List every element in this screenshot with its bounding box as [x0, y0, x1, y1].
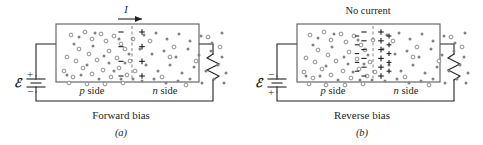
electron-carrier: [221, 32, 224, 35]
electron-carrier: [155, 32, 158, 35]
hole-carrier: [427, 83, 431, 87]
electron-carrier: [448, 70, 451, 73]
hole-carrier: [101, 68, 105, 72]
n-side-label-rest-b: side: [399, 85, 419, 96]
battery-top-sign-b: −: [268, 68, 274, 80]
hole-carrier: [313, 60, 317, 64]
electron-carrier: [108, 62, 111, 65]
emf-label-a: ℰ: [14, 76, 23, 90]
battery-top-sign-a: +: [27, 68, 33, 80]
electron-carrier: [384, 80, 387, 83]
hole-carrier: [339, 32, 343, 36]
electron-carrier: [118, 38, 121, 41]
hole-carrier: [67, 81, 71, 85]
electron-carrier: [357, 39, 360, 42]
electron-carrier: [175, 56, 178, 59]
electron-carrier: [151, 53, 154, 56]
wire-left-a: [36, 44, 56, 76]
electron-carrier: [92, 45, 95, 48]
hole-carrier: [320, 67, 324, 71]
electron-carrier: [325, 65, 328, 68]
electron-carrier: [210, 50, 213, 53]
hole-carrier: [95, 58, 99, 62]
electron-carrier: [312, 44, 315, 47]
sublabel-b: (b): [356, 127, 369, 139]
electron-carrier: [454, 42, 457, 45]
hole-carrier: [341, 69, 345, 73]
wire-left-b: [277, 44, 297, 76]
electron-carrier: [421, 33, 424, 36]
hole-carrier: [437, 59, 441, 63]
hole-carrier: [329, 73, 333, 77]
electron-carrier: [225, 72, 228, 75]
electron-carrier: [441, 54, 444, 57]
electron-carrier: [181, 72, 184, 75]
electron-carrier: [398, 32, 401, 35]
hole-carrier: [326, 53, 330, 57]
hole-carrier: [160, 75, 164, 79]
p-side-label-rest-a: side: [85, 85, 105, 96]
electron-carrier: [189, 40, 192, 43]
electron-carrier: [418, 56, 421, 59]
electron-carrier: [187, 48, 190, 51]
hole-carrier: [460, 45, 464, 49]
n-side-label-a: n side: [153, 85, 178, 96]
electron-carrier: [432, 40, 435, 43]
hole-carrier: [355, 57, 359, 61]
hole-carrier: [168, 55, 172, 59]
electron-carrier: [141, 80, 144, 83]
hole-carrier: [77, 47, 81, 51]
electron-carrier: [363, 63, 366, 66]
electron-carrier: [120, 78, 123, 81]
electron-carrier: [217, 64, 220, 67]
electron-carrier: [113, 70, 116, 73]
electron-carrier: [98, 78, 101, 81]
electron-carrier: [177, 80, 180, 83]
electron-carrier: [400, 70, 403, 73]
panel-forward-bias: ℰ + − I p side n side Forward bias (a): [0, 0, 242, 145]
electron-carrier: [412, 64, 415, 67]
electron-carrier: [213, 78, 216, 81]
electron-carrier: [456, 78, 459, 81]
hole-carrier: [316, 48, 320, 52]
electron-carrier: [128, 53, 131, 56]
hole-carrier: [344, 40, 348, 44]
electron-carrier: [86, 64, 89, 67]
electron-carrier: [200, 35, 203, 38]
hole-carrier: [148, 39, 152, 43]
electron-carrier: [205, 70, 208, 73]
electron-carrier: [163, 50, 166, 53]
hole-carrier: [90, 37, 94, 41]
electron-carrier: [443, 35, 446, 38]
hole-carrier: [90, 72, 94, 76]
electron-carrier: [157, 70, 160, 73]
wire-right-b: [440, 44, 454, 54]
hole-carrier: [357, 67, 361, 71]
hole-carrier: [109, 75, 113, 79]
electron-carrier: [221, 56, 224, 59]
electron-carrier: [394, 53, 397, 56]
wire-right-a: [199, 44, 213, 54]
caption-b: Reverse bias: [334, 109, 390, 121]
hole-carrier: [128, 59, 132, 63]
electron-carrier: [66, 74, 69, 77]
hole-carrier: [359, 43, 363, 47]
battery-bottom-sign-a: −: [27, 85, 33, 97]
electron-carrier: [343, 56, 346, 59]
electron-carrier: [459, 64, 462, 67]
electron-carrier: [359, 79, 362, 82]
hole-carrier: [449, 35, 453, 39]
hole-carrier: [115, 56, 119, 60]
pn-junction-figure: ℰ + − I p side n side Forward bias (a): [0, 0, 483, 145]
hole-carrier: [65, 55, 69, 59]
electron-carrier: [193, 66, 196, 69]
battery-bottom-sign-b: +: [268, 86, 274, 98]
caption-a: Forward bias: [92, 109, 150, 121]
hole-carrier: [99, 32, 103, 36]
electron-carrier: [463, 56, 466, 59]
hole-carrier: [62, 69, 66, 73]
resistor-a: [207, 54, 219, 80]
resistor-zigzag-b: [448, 54, 460, 80]
electron-carrier: [432, 78, 435, 81]
electron-carrier: [331, 46, 334, 49]
